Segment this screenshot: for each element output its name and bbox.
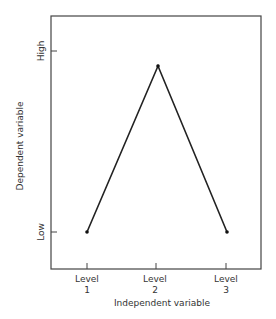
data-point-2 — [156, 64, 160, 68]
data-point-3 — [225, 230, 229, 234]
x-tick-label-2-line2: 2 — [152, 285, 158, 295]
y-tick-label-high: High — [36, 41, 46, 62]
y-tick-label-low: Low — [36, 223, 46, 241]
x-tick-label-1-line1: Level — [75, 274, 99, 284]
x-tick-label-1-line2: 1 — [84, 285, 90, 295]
data-point-1 — [85, 230, 89, 234]
x-tick-label-3-line1: Level — [214, 274, 238, 284]
y-axis-label: Dependent variable — [15, 101, 25, 191]
x-axis-label: Independent variable — [114, 298, 211, 308]
x-tick-label-2-line1: Level — [143, 274, 167, 284]
data-line — [87, 66, 227, 232]
plot-frame — [51, 16, 261, 269]
chart: High Low Dependent variable Level 1 Leve… — [0, 0, 276, 319]
x-tick-label-3-line2: 3 — [223, 285, 229, 295]
